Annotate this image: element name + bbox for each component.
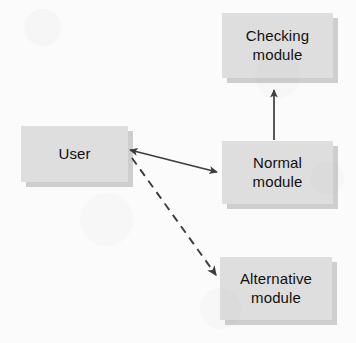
edge-user-to-alternative	[132, 158, 216, 275]
edge-user-to-normal	[130, 150, 217, 172]
edge-layer: Alternative module (dashed, single arrow…	[0, 0, 356, 343]
diagram-canvas: Alternative module (dashed, single arrow…	[0, 0, 356, 343]
